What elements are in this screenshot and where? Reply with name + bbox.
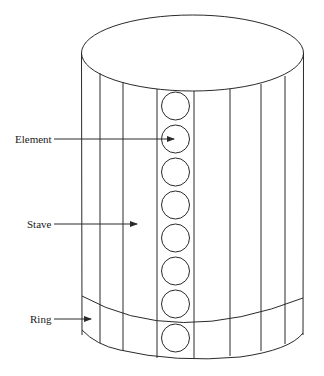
cylinder-left-edge	[82, 53, 83, 335]
element-column	[162, 92, 190, 352]
element-label: Element	[15, 133, 52, 145]
ring-label: Ring	[30, 313, 52, 325]
stave-label: Stave	[27, 218, 52, 230]
element-3	[162, 158, 190, 186]
cylinder-bottom-edge	[82, 330, 303, 359]
cylinder-right-edge	[303, 53, 304, 335]
element-6	[162, 257, 190, 285]
cylinder-top	[82, 15, 304, 91]
element-4	[162, 191, 190, 219]
ring-top-edge	[82, 296, 303, 323]
stave-dividers	[100, 73, 285, 359]
element-7	[162, 290, 190, 318]
element-1	[162, 92, 190, 120]
cylinder-diagram: Element Stave Ring	[0, 0, 324, 376]
element-8	[162, 324, 190, 352]
element-5	[162, 224, 190, 252]
